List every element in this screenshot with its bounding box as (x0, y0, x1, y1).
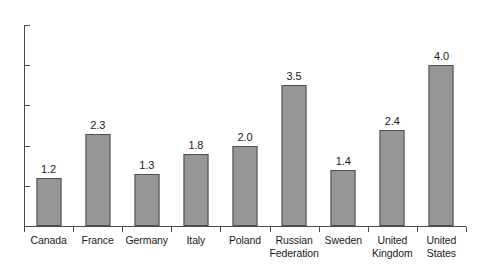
bar (134, 174, 159, 226)
bar-slot: 2.3 (73, 25, 122, 226)
bar (380, 130, 405, 226)
x-axis-category-label: Germany (122, 234, 171, 247)
x-axis-tick (171, 227, 172, 232)
bar (232, 146, 257, 226)
y-axis-tick-label-wrap: 4 (0, 65, 24, 66)
category-label-line: Germany (122, 234, 171, 247)
x-axis-tick (270, 227, 271, 232)
y-axis-tick-label-wrap: 2 (0, 146, 24, 147)
bar (429, 65, 454, 226)
bar-value-label: 1.3 (139, 159, 154, 171)
bar-value-label: 2.3 (90, 119, 105, 131)
bar-slot: 1.4 (319, 25, 368, 226)
bar-chart: 012345 1.22.31.31.82.03.51.42.44.0 Canad… (0, 0, 479, 266)
category-label-line: Kingdom (368, 247, 417, 260)
bar (36, 178, 61, 226)
x-axis-tick (319, 227, 320, 232)
bar-slot: 2.4 (368, 25, 417, 226)
bar-value-label: 3.5 (287, 70, 302, 82)
plot-area: 1.22.31.31.82.03.51.42.44.0 (24, 25, 466, 226)
x-axis-category-label: Sweden (319, 234, 368, 247)
bar-value-label: 2.4 (385, 115, 400, 127)
bar (183, 154, 208, 226)
x-axis-category-label: Poland (220, 234, 269, 247)
y-axis-tick-label-wrap: 0 (0, 226, 24, 227)
bar-value-label: 1.8 (188, 139, 203, 151)
x-axis-tick (466, 227, 467, 232)
bar-value-label: 1.2 (41, 163, 56, 175)
bar-slot: 1.2 (24, 25, 73, 226)
x-axis-category-label: RussianFederation (270, 234, 319, 260)
x-axis-category-label: Italy (171, 234, 220, 247)
category-label-line: Sweden (319, 234, 368, 247)
x-axis-category-label: Canada (24, 234, 73, 247)
bar-value-label: 2.0 (237, 131, 252, 143)
x-axis-category-label: UnitedKingdom (368, 234, 417, 260)
bar-slot: 4.0 (417, 25, 466, 226)
bar (85, 134, 110, 226)
x-axis-category-label: UnitedStates (417, 234, 466, 260)
bar-slot: 3.5 (270, 25, 319, 226)
bar-slot: 1.8 (171, 25, 220, 226)
category-label-line: United (417, 234, 466, 247)
category-label-line: France (73, 234, 122, 247)
category-label-line: Federation (270, 247, 319, 260)
y-axis-tick-label-wrap: 1 (0, 186, 24, 187)
y-axis-tick-label-wrap: 3 (0, 105, 24, 106)
x-axis-tick (73, 227, 74, 232)
bar-value-label: 1.4 (336, 155, 351, 167)
x-axis-line (24, 226, 466, 227)
x-axis-tick (122, 227, 123, 232)
bar-slot: 1.3 (122, 25, 171, 226)
bar (331, 170, 356, 226)
category-label-line: Canada (24, 234, 73, 247)
category-label-line: States (417, 247, 466, 260)
x-axis-category-labels: CanadaFranceGermanyItalyPolandRussianFed… (24, 234, 466, 266)
bar-value-label: 4.0 (434, 50, 449, 62)
category-label-line: Poland (220, 234, 269, 247)
bar (282, 85, 307, 226)
x-axis-tick (417, 227, 418, 232)
x-axis-category-label: France (73, 234, 122, 247)
bar-slot: 2.0 (220, 25, 269, 226)
category-label-line: United (368, 234, 417, 247)
category-label-line: Russian (270, 234, 319, 247)
x-axis-tick (368, 227, 369, 232)
y-axis-tick-label-wrap: 5 (0, 25, 24, 26)
x-axis-tick (24, 227, 25, 232)
x-axis-tick (220, 227, 221, 232)
category-label-line: Italy (171, 234, 220, 247)
